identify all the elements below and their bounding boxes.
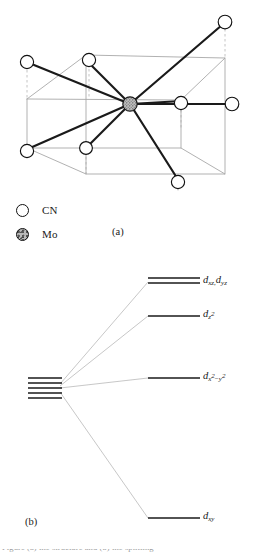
level-connectors xyxy=(60,282,148,518)
level-label-dz2: dz2 xyxy=(203,308,214,321)
cn-ligand xyxy=(174,96,187,109)
cn-ligand xyxy=(218,15,232,29)
figure-caption-text: Figure (a) the structure and (b) the spl… xyxy=(2,549,154,552)
legend-item-mo: Mo xyxy=(16,224,58,244)
level-label-dx2y2: dx2−y2 xyxy=(203,370,225,383)
cn-ligand xyxy=(20,55,33,68)
cn-ligand xyxy=(82,53,95,66)
connector-dz2 xyxy=(60,316,148,386)
connector-dxy xyxy=(60,392,148,518)
cn-ligand xyxy=(20,144,33,157)
cn-ligand xyxy=(80,142,93,155)
legend: CN Mo (a) xyxy=(0,198,262,254)
open-circle-icon xyxy=(16,204,29,217)
figure-caption-clipped: Figure (a) the structure and (b) the spl… xyxy=(0,549,262,558)
panel-b-tag: (b) xyxy=(25,516,37,527)
split-levels xyxy=(148,278,200,518)
panel-a-tag: (a) xyxy=(112,226,124,237)
connector-dx2y2 xyxy=(60,378,148,388)
cube-edges xyxy=(27,55,225,174)
level-label-dxy: dxy xyxy=(203,510,214,523)
panel-a-structure xyxy=(0,0,262,200)
level-label-dxz-dyz: dxz,dyz xyxy=(203,274,227,287)
mo-center-atom xyxy=(123,97,137,111)
free-ion-levels xyxy=(28,378,62,398)
connector-dxz-dyz xyxy=(60,282,148,384)
cn-ligand xyxy=(225,97,239,111)
legend-item-cn: CN xyxy=(16,200,58,220)
stippled-circle-icon xyxy=(16,228,29,241)
energy-level-diagram xyxy=(0,254,262,558)
legend-label-mo: Mo xyxy=(42,228,58,240)
panel-b-splitting-diagram: dxz,dyz dz2 dx2−y2 dxy (b) xyxy=(0,254,262,558)
cn-ligand xyxy=(171,175,184,188)
structure-diagram xyxy=(0,0,262,200)
figure-root: CN Mo (a) xyxy=(0,0,262,558)
legend-label-cn: CN xyxy=(42,204,58,216)
